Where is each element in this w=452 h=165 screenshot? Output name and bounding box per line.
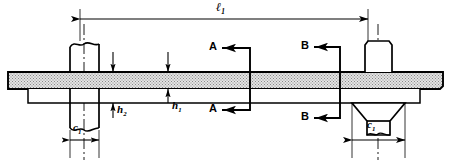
main-plate (8, 72, 443, 89)
label-c1-left: c1 (73, 122, 81, 136)
label-section-b-bottom: B (301, 111, 309, 122)
lower-flange-strip (28, 89, 420, 103)
label-h2: h2 (117, 104, 127, 118)
right-bolt-head (365, 41, 392, 72)
label-section-a-top: A (209, 41, 217, 52)
label-l1: ℓ1 (216, 1, 225, 16)
right-hex-nut (352, 103, 405, 135)
label-section-a-bottom: A (209, 103, 217, 114)
engineering-diagram: ℓ1 h2 h1 c1 c1 A A B B (0, 0, 452, 165)
label-section-b-top: B (301, 40, 309, 51)
diagram-canvas (0, 0, 452, 165)
label-c1-right: c1 (367, 119, 375, 133)
label-h1: h1 (172, 100, 182, 114)
